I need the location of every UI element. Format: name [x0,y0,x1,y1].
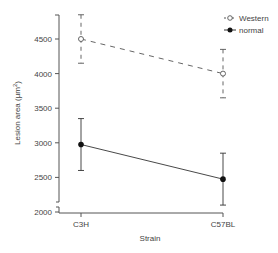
open-circle-marker-icon [221,71,226,76]
legend: Western normal [224,14,269,35]
legend-item-western: Western [224,14,269,23]
series-line [81,145,223,180]
filled-circle-marker-icon [220,176,226,182]
y-tick-label: 3500 [34,104,52,113]
y-tick-label: 4000 [34,70,52,79]
y-tick-label: 3000 [34,139,52,148]
y-tick-label: 2000 [34,208,52,217]
y-axis-title: Lesion area (µm2) [12,81,22,145]
y-tick-label: 4500 [34,35,52,44]
x-tick-label-c57bl: C57BL [211,220,236,229]
filled-circle-marker-icon [228,28,233,33]
legend-label-western: Western [239,14,269,23]
series-line [81,39,223,74]
open-circle-marker-icon [79,37,84,42]
series-layer [78,15,226,205]
series-western [78,15,226,98]
y-tick-label: 2500 [34,173,52,182]
y-axis: 200025003000350040004500 [34,15,59,217]
x-axis: C3H C57BL Strain [59,213,236,243]
x-axis-title: Strain [140,234,161,243]
x-tick-label-c3h: C3H [73,220,89,229]
filled-circle-marker-icon [78,142,84,148]
series-normal [78,119,226,206]
legend-label-normal: normal [239,26,264,35]
legend-item-normal: normal [224,26,264,35]
open-circle-marker-icon [228,16,233,21]
chart-canvas: 200025003000350040004500 C3H C57BL Strai… [0,0,278,253]
